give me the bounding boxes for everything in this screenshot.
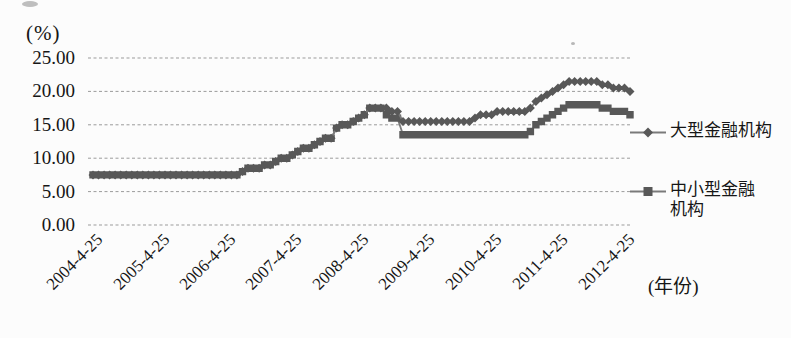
y-axis-tick-label: 10.00 — [0, 148, 75, 168]
legend-label-small-medium: 中小型金融机构 — [670, 180, 760, 220]
y-axis-tick-label: 0.00 — [0, 215, 75, 235]
reserve-ratio-line-chart: (%) 25.0020.0015.0010.005.000.00 2004-4-… — [0, 0, 791, 338]
y-axis-unit-label: (%) — [26, 21, 60, 46]
legend-item-large-financial-institutions: 大型金融机构 — [630, 121, 772, 141]
diamond-marker-line-icon — [630, 127, 666, 138]
scan-artifact — [22, 1, 38, 7]
scan-artifact — [571, 42, 575, 45]
y-axis-tick-label: 25.00 — [0, 48, 75, 68]
y-axis-tick-label: 5.00 — [0, 182, 75, 202]
legend-item-small-medium-financial-institutions: 中小型金融机构 — [630, 180, 760, 220]
x-axis-unit-label: (年份) — [648, 271, 699, 298]
y-axis-tick-label: 20.00 — [0, 81, 75, 101]
legend-label-large: 大型金融机构 — [670, 121, 772, 141]
series-markers-small-medium — [89, 101, 633, 178]
series-markers-large — [89, 77, 635, 179]
y-axis-tick-label: 15.00 — [0, 115, 75, 135]
square-marker-line-icon — [630, 186, 666, 197]
